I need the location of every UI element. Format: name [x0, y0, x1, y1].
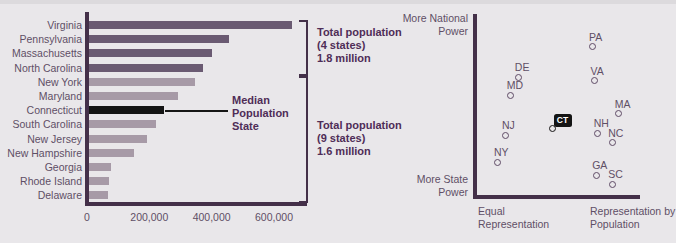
annotation-line: State — [232, 120, 289, 133]
scatter-point-label: NC — [608, 127, 623, 139]
scatter-point-label: NH — [594, 117, 609, 129]
x-axis-tick-label: 400,000 — [193, 211, 231, 223]
bar-category-label: Maryland — [0, 90, 82, 102]
bar — [89, 135, 147, 143]
scatter-point-label: DE — [515, 61, 530, 73]
axis-label-line: Power — [360, 25, 468, 38]
scatter-point-label: GA — [592, 159, 607, 171]
annotation-line: 1.6 million — [317, 145, 402, 158]
bar — [89, 21, 292, 29]
bar-category-label: Delaware — [0, 189, 82, 201]
bar — [89, 78, 195, 86]
annotation-line: (9 states) — [317, 132, 402, 145]
axis-label-line: Power — [360, 186, 468, 199]
figure: VirginiaPennsylvaniaMassachusettsNorth C… — [0, 0, 676, 243]
bar — [89, 149, 134, 157]
bar — [89, 106, 164, 114]
scatter-point-label: MD — [507, 79, 523, 91]
scatter-point-nc — [609, 139, 616, 146]
annotation-median-state: Median Population State — [232, 94, 289, 133]
scatter-y-label-top: More National Power — [360, 12, 468, 37]
annotation-line: Population — [232, 107, 289, 120]
bar-category-label: New York — [0, 76, 82, 88]
bar-category-label: New Jersey — [0, 133, 82, 145]
annotation-line: Median — [232, 94, 289, 107]
scatter-point-label: NY — [494, 146, 509, 158]
bar-category-label: North Carolina — [0, 62, 82, 74]
annotation-line: (4 states) — [317, 39, 402, 52]
bar-category-label: South Carolina — [0, 118, 82, 130]
bar — [89, 177, 109, 185]
bar — [89, 163, 111, 171]
scatter-point-ga — [593, 172, 600, 179]
bar-category-label: Georgia — [0, 161, 82, 173]
bar-x-axis-line — [85, 202, 307, 206]
axis-label-line: Representation — [478, 218, 549, 231]
axis-label-line: More State — [360, 173, 468, 186]
bar — [89, 191, 108, 199]
bracket-bottom-9-states — [299, 76, 308, 203]
scatter-x-label-right: Representation by Population — [590, 205, 675, 230]
scatter-x-label-left: Equal Representation — [478, 205, 549, 230]
x-axis-tick-label: 600,000 — [255, 211, 293, 223]
bar-category-label: New Hampshire — [0, 147, 82, 159]
scatter-point-label: VA — [591, 65, 604, 77]
scatter-point-label: PA — [589, 31, 602, 43]
page-edge — [0, 0, 676, 4]
bar — [89, 49, 212, 57]
annotation-total-9-states: Total population (9 states) 1.6 million — [317, 119, 402, 158]
bar-category-label: Massachusetts — [0, 47, 82, 59]
annotation-line: 1.8 million — [317, 52, 402, 65]
bar-y-axis-line — [85, 12, 89, 206]
bar-category-label: Virginia — [0, 19, 82, 31]
bracket-top-4-states — [299, 20, 308, 76]
bar — [89, 92, 178, 100]
bar — [89, 35, 229, 43]
scatter-point-label: MA — [615, 98, 631, 110]
bar-category-label: Connecticut — [0, 104, 82, 116]
scatter-highlight-label: CT — [554, 114, 572, 127]
x-axis-tick-label: 0 — [84, 211, 90, 223]
bar-category-label: Rhode Island — [0, 175, 82, 187]
scatter-point-sc — [609, 181, 616, 188]
x-axis-tick-label: 200,000 — [130, 211, 168, 223]
axis-label-line: Population — [590, 218, 675, 231]
bar-category-label: Pennsylvania — [0, 33, 82, 45]
axis-label-line: More National — [360, 12, 468, 25]
annotation-line: Total population — [317, 119, 402, 132]
bar — [89, 120, 156, 128]
scatter-y-label-bottom: More State Power — [360, 173, 468, 198]
scatter-point-label: NJ — [502, 119, 515, 131]
scatter-point-label: SC — [608, 168, 623, 180]
bar — [89, 64, 203, 72]
median-connector-line — [165, 110, 228, 112]
axis-label-line: Representation by — [590, 205, 675, 218]
axis-label-line: Equal — [478, 205, 549, 218]
